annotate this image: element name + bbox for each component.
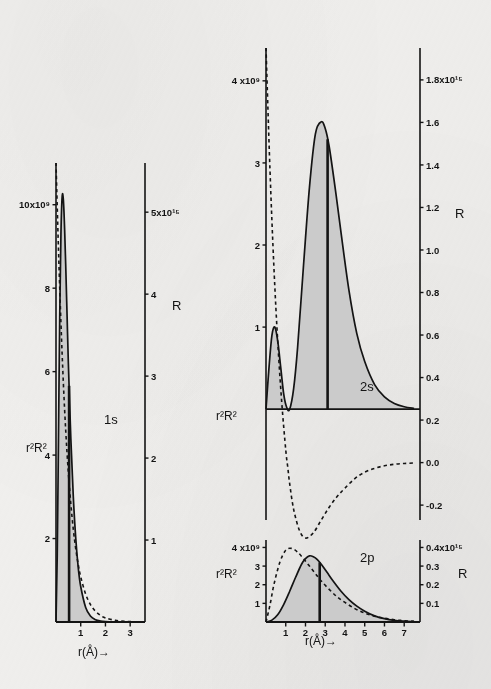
right-axis-tick-label: 0.6 [426, 330, 439, 341]
right-axis-tick-label: 5x10¹⁵ [151, 207, 180, 218]
panel-1s-plot-area: 246810x10⁹12345x10¹⁵123 [19, 163, 180, 638]
left-axis-tick-label: 2 [45, 533, 50, 544]
panel-2s-right-axis-label: R [455, 206, 464, 221]
panel-1s-right-axis-label: R [172, 298, 181, 313]
panel-2s-plot-area: 1234 x10⁹-0.20.00.20.40.60.81.01.21.41.6… [232, 48, 463, 538]
right-axis-tick-label: 0.0 [426, 457, 439, 468]
panel-2p-orbital-label: 2p [360, 550, 374, 565]
right-axis-tick-label: 1.2 [426, 202, 439, 213]
right-axis-tick-label: 0.4 [426, 372, 440, 383]
left-axis-tick-label: 4 x10⁹ [232, 542, 260, 553]
left-axis-tick-label: 8 [45, 283, 50, 294]
panel-1s-left-axis-label: r²R² [26, 441, 47, 455]
left-axis-tick-label: 1 [255, 598, 261, 609]
right-axis-tick-label: -0.2 [426, 500, 442, 511]
right-axis-tick-label: 0.2 [426, 415, 439, 426]
right-axis-tick-label: 0.4x10¹⁵ [426, 542, 463, 553]
x-axis-tick-label: 6 [382, 627, 387, 638]
x-axis-tick-label: 4 [342, 627, 348, 638]
right-axis-tick-label: 0.2 [426, 579, 439, 590]
panel-2s-orbital-label: 2s [360, 379, 374, 394]
right-axis-tick-label: 1.0 [426, 245, 439, 256]
right-axis-tick-label: 4 [151, 289, 157, 300]
x-axis-tick-label: 1 [78, 627, 84, 638]
panel-2p-plot-area: 1234 x10⁹0.10.20.30.4x10¹⁵1234567 [232, 540, 463, 638]
radial-wavefunction-figure: 246810x10⁹12345x10¹⁵123 1s r²R² R r(Å)→ … [0, 0, 491, 689]
panel-2p-left-axis-label: r²R² [216, 567, 237, 581]
x-axis-tick-label: 7 [402, 627, 407, 638]
left-axis-tick-label: 2 [255, 579, 260, 590]
panel-2s-left-axis-label: r²R² [216, 409, 237, 423]
right-axis-tick-label: 0.8 [426, 287, 439, 298]
right-axis-tick-label: 1.4 [426, 160, 440, 171]
x-axis-tick-label: 3 [128, 627, 133, 638]
right-axis-tick-label: 1 [151, 535, 157, 546]
panel-2p-x-axis-label: r(Å)→ [305, 633, 337, 648]
right-axis-tick-label: 0.1 [426, 598, 440, 609]
x-axis-tick-label: 2 [103, 627, 108, 638]
x-axis-tick-label: 1 [283, 627, 289, 638]
left-axis-tick-label: 10x10⁹ [19, 199, 50, 210]
right-axis-tick-label: 0.3 [426, 561, 439, 572]
left-axis-tick-label: 3 [255, 561, 260, 572]
panel-2p-right-axis-label: R [458, 566, 467, 581]
left-axis-tick-label: 2 [255, 240, 260, 251]
panel-2p: 1234 x10⁹0.10.20.30.4x10¹⁵1234567 2p r²R… [216, 540, 467, 648]
panel-1s: 246810x10⁹12345x10¹⁵123 1s r²R² R r(Å)→ [19, 163, 181, 659]
radial-distribution-fill [266, 122, 414, 411]
left-axis-tick-label: 1 [255, 322, 261, 333]
panel-1s-x-axis-label: r(Å)→ [78, 644, 110, 659]
right-axis-tick-label: 1.6 [426, 117, 439, 128]
panel-1s-orbital-label: 1s [104, 412, 118, 427]
right-axis-tick-label: 2 [151, 453, 156, 464]
right-axis-tick-label: 1.8x10¹⁵ [426, 74, 463, 85]
panel-2s: 1234 x10⁹-0.20.00.20.40.60.81.01.21.41.6… [216, 48, 464, 538]
right-axis-tick-label: 3 [151, 371, 156, 382]
x-axis-tick-label: 5 [362, 627, 368, 638]
left-axis-tick-label: 4 x10⁹ [232, 75, 260, 86]
left-axis-tick-label: 3 [255, 158, 260, 169]
left-axis-tick-label: 6 [45, 366, 50, 377]
